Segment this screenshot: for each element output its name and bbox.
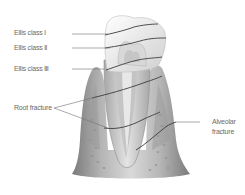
label-alveolar-fracture: fracture	[212, 128, 234, 136]
label-ellis-class-1: Ellis class Ⅰ	[14, 29, 46, 37]
tooth-fracture-diagram: Ellis class Ⅰ Ellis class Ⅱ Ellis class …	[0, 0, 245, 195]
label-ellis-class-2: Ellis class Ⅱ	[14, 44, 47, 52]
label-root-fracture: Root fracture	[14, 104, 52, 112]
label-alveolar: Alveolar	[212, 118, 236, 126]
label-ellis-class-3: Ellis class Ⅲ	[14, 65, 49, 73]
